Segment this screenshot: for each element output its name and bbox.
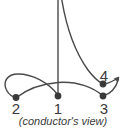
beat-label-3: 3	[97, 101, 111, 116]
beat-dot-3	[100, 93, 107, 100]
beat-dot-1	[55, 93, 62, 100]
beat-label-4: 4	[97, 68, 111, 83]
beat-1-to-beat-2-loop-path	[5, 74, 58, 98]
beat-label-2: 2	[9, 101, 23, 116]
figure-caption: (conductor's view)	[0, 115, 126, 127]
arrowhead-icon	[114, 77, 118, 82]
conducting-pattern-figure: 1 2 3 4 (conductor's view)	[0, 0, 126, 131]
beat-label-1: 1	[51, 101, 65, 116]
